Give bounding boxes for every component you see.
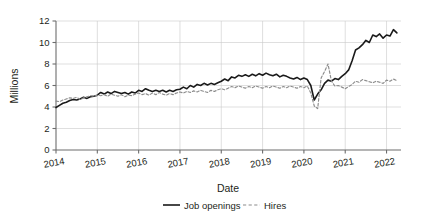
x-tick-label: 2016 bbox=[125, 155, 148, 170]
jolts-line-chart: 024681012 201420152016201720182019202020… bbox=[0, 0, 427, 222]
x-tick-label: 2017 bbox=[167, 155, 190, 170]
y-axis-title: Millions bbox=[8, 68, 20, 103]
y-tick-label: 4 bbox=[44, 101, 49, 112]
x-tick-label: 2014 bbox=[43, 155, 66, 170]
x-tick-label: 2015 bbox=[84, 155, 107, 170]
x-tick-label: 2018 bbox=[208, 155, 231, 170]
y-tick-label: 10 bbox=[39, 37, 50, 48]
x-tick-label: 2019 bbox=[249, 155, 272, 170]
y-tick-label: 6 bbox=[44, 80, 49, 91]
y-tick-label: 8 bbox=[44, 58, 49, 69]
y-tick-label: 12 bbox=[39, 15, 50, 26]
x-tick-label: 2020 bbox=[291, 155, 314, 170]
y-tick-label: 2 bbox=[44, 123, 49, 134]
chart-figure: 024681012 201420152016201720182019202020… bbox=[0, 0, 427, 222]
chart-legend: Job openings Hires bbox=[163, 200, 286, 211]
legend-label-job-openings: Job openings bbox=[184, 200, 241, 211]
y-tick-label: 0 bbox=[44, 144, 49, 155]
x-axis-tick-labels: 201420152016201720182019202020212022 bbox=[43, 155, 396, 170]
x-tick-label: 2022 bbox=[373, 155, 396, 170]
legend-label-hires: Hires bbox=[264, 200, 286, 211]
x-axis-title: Date bbox=[217, 182, 239, 194]
y-axis-tick-labels: 024681012 bbox=[39, 15, 50, 155]
x-tick-label: 2021 bbox=[332, 155, 355, 170]
